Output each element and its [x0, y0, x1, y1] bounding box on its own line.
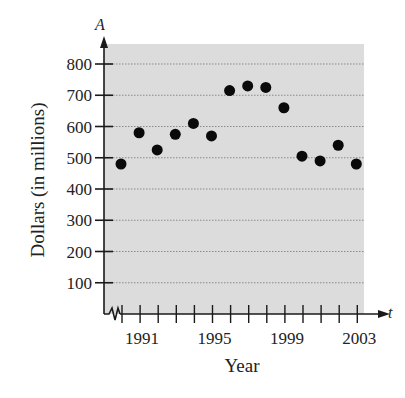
data-point: [152, 144, 163, 155]
y-axis-title: Dollars (in millions): [27, 102, 49, 257]
y-tick-label: 700: [67, 86, 93, 105]
y-axis-variable: A: [94, 16, 105, 33]
x-tick-label: 1999: [270, 329, 304, 348]
y-tick-label: 300: [67, 211, 93, 230]
data-point: [224, 85, 235, 96]
y-tick-label: 100: [67, 274, 93, 293]
x-tick-label: 1991: [125, 329, 159, 348]
x-axis-title: Year: [224, 355, 260, 376]
y-tick-label: 200: [67, 243, 93, 262]
data-point: [278, 102, 289, 113]
data-point: [188, 118, 199, 129]
data-point: [351, 159, 362, 170]
data-point: [333, 140, 344, 151]
y-tick-label: 800: [67, 55, 93, 74]
y-tick-label: 500: [67, 149, 93, 168]
y-tick-label: 600: [67, 118, 93, 137]
x-tick-label: 2003: [342, 329, 376, 348]
x-axis-variable: t: [388, 304, 393, 321]
plot-background: [104, 44, 364, 314]
data-point: [116, 159, 127, 170]
data-point: [260, 82, 271, 93]
data-point: [170, 129, 181, 140]
y-tick-label: 400: [67, 180, 93, 199]
scatter-chart: 100200300400500600700800 199119951999200…: [0, 0, 405, 398]
data-point: [134, 127, 145, 138]
data-point: [206, 130, 217, 141]
data-point: [242, 80, 253, 91]
data-point: [297, 151, 308, 162]
x-tick-label: 1995: [198, 329, 232, 348]
data-point: [315, 155, 326, 166]
y-axis-arrow: [100, 36, 108, 48]
